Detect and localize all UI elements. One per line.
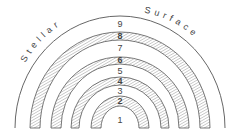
diagram-canvas: Stellar Surface 9 8 7 6 5 4 3 2 1 bbox=[0, 0, 238, 133]
stellar-layers-diagram: Stellar Surface 9 8 7 6 5 4 3 2 1 bbox=[0, 0, 238, 133]
layer-7-label: 7 bbox=[117, 43, 122, 53]
layer-8-label: 8 bbox=[117, 31, 122, 41]
layer-9-label: 9 bbox=[117, 19, 122, 29]
layer-4-label: 4 bbox=[117, 76, 122, 86]
layer-1-label: 1 bbox=[117, 115, 122, 125]
title-surface: Surface bbox=[143, 5, 201, 41]
layer-5-label: 5 bbox=[117, 66, 122, 76]
layer-6-label: 6 bbox=[117, 55, 122, 65]
layer-2-label: 2 bbox=[117, 96, 122, 106]
title-stellar: Stellar bbox=[19, 18, 63, 64]
layer-3-label: 3 bbox=[117, 86, 122, 96]
